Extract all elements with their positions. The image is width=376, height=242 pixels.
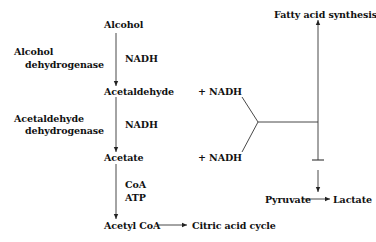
node-acetaldehyde: Acetaldehyde: [104, 86, 174, 97]
node-fatty-acid-synthesis: Fatty acid synthesis: [274, 9, 376, 20]
cofactor-nadh-step2: NADH: [125, 119, 158, 130]
node-acetyl-coa: Acetyl CoA: [104, 220, 160, 231]
nadh2-branch: [242, 122, 258, 152]
enzyme-alcohol-dh-line1: Alcohol: [14, 46, 53, 57]
cofactor-coa: CoA: [125, 179, 146, 190]
cofactor-nadh-step1: NADH: [125, 53, 158, 64]
node-lactate: Lactate: [333, 194, 372, 205]
node-acetate: Acetate: [104, 152, 143, 163]
node-alcohol: Alcohol: [104, 19, 143, 30]
nadh1-branch: [242, 97, 258, 122]
node-citric-acid-cycle: Citric acid cycle: [192, 220, 276, 231]
node-pyruvate: Pyruvate: [265, 194, 311, 205]
enzyme-alcohol-dh-line2: dehydrogenase: [25, 59, 104, 70]
enzyme-acetaldehyde-dh-line2: dehydrogenase: [25, 125, 104, 136]
cofactor-atp: ATP: [125, 192, 146, 203]
enzyme-acetaldehyde-dh-line1: Acetaldehyde: [14, 113, 84, 124]
plus-nadh-2: + NADH: [198, 152, 242, 163]
pathway-diagram: Alcohol Acetaldehyde Acetate Acetyl CoA …: [0, 0, 376, 242]
plus-nadh-1: + NADH: [198, 86, 242, 97]
